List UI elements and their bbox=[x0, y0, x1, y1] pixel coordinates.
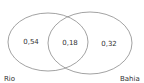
bahia-set-label: Bahia bbox=[120, 76, 140, 83]
rio-set-label: Rio bbox=[4, 76, 15, 83]
rio-only-value: 0,54 bbox=[23, 39, 39, 46]
intersection-value: 0,18 bbox=[62, 40, 78, 47]
bahia-set-ellipse bbox=[48, 12, 132, 74]
bahia-only-value: 0,32 bbox=[101, 41, 117, 48]
